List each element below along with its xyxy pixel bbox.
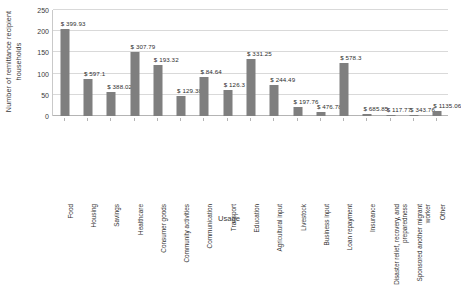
bar-slot: $ 331.25 — [239, 10, 262, 116]
y-axis-tick-label: 150 — [37, 49, 53, 56]
bar[interactable] — [340, 63, 349, 116]
bar-value-label: $ 1135.06 — [433, 102, 461, 109]
bar[interactable] — [107, 92, 116, 116]
y-axis-title: Number of remittance recipient household… — [4, 0, 23, 127]
x-axis-tick — [110, 118, 111, 121]
bar[interactable] — [177, 96, 186, 116]
x-axis-title: Usage — [0, 214, 458, 223]
bar[interactable] — [386, 115, 395, 116]
bar[interactable] — [153, 65, 162, 116]
x-axis-tick — [157, 118, 158, 121]
x-axis-tick — [390, 118, 391, 121]
x-axis-tick — [134, 118, 135, 121]
x-axis-tick — [203, 118, 204, 121]
bar[interactable] — [410, 115, 419, 116]
x-axis-tick — [366, 118, 367, 121]
bar-slot: $ 126.3 — [216, 10, 239, 116]
bar-slot: $ 388.02 — [100, 10, 123, 116]
bar-slot: $ 197.76 — [286, 10, 309, 116]
x-axis-tick — [64, 118, 65, 121]
x-axis-tick — [436, 118, 437, 121]
x-axis-tick — [320, 118, 321, 121]
x-axis-category-labels: FoodHousingSavingsHealthcareConsumer goo… — [52, 118, 448, 206]
x-axis-tick — [343, 118, 344, 121]
bar-slot: $ 597.1 — [76, 10, 99, 116]
bar[interactable] — [60, 29, 69, 116]
x-axis-tick — [250, 118, 251, 121]
x-axis-tick — [413, 118, 414, 121]
bar-slot: $ 117.77 — [379, 10, 402, 116]
bar[interactable] — [246, 59, 255, 116]
bar-series: $ 399.93$ 597.1$ 388.02$ 307.79$ 193.32$… — [53, 10, 448, 116]
bar[interactable] — [83, 79, 92, 116]
y-axis-tick-label: 100 — [37, 70, 53, 77]
bar-slot: $ 129.38 — [169, 10, 192, 116]
bar[interactable] — [293, 107, 302, 116]
bar[interactable] — [130, 52, 139, 116]
plot-area: 050100150200250 $ 399.93$ 597.1$ 388.02$… — [52, 10, 448, 116]
bar[interactable] — [316, 112, 325, 116]
x-axis-tick — [297, 118, 298, 121]
bar[interactable] — [363, 114, 372, 116]
bar-slot: $ 84.64 — [193, 10, 216, 116]
bar-slot: $ 578.3 — [333, 10, 356, 116]
x-axis-tick — [227, 118, 228, 121]
bar[interactable] — [200, 77, 209, 116]
bar-slot: $ 399.93 — [53, 10, 76, 116]
bar-slot: $ 476.78 — [309, 10, 332, 116]
y-axis-tick-label: 250 — [37, 7, 53, 14]
bar-slot: $ 343.76 — [402, 10, 425, 116]
y-axis-tick-label: 50 — [41, 91, 53, 98]
x-axis-tick — [273, 118, 274, 121]
bar-slot: $ 244.49 — [263, 10, 286, 116]
bar-slot: $ 685.85 — [356, 10, 379, 116]
bar[interactable] — [270, 85, 279, 116]
bar[interactable] — [223, 90, 232, 116]
x-axis-tick — [87, 118, 88, 121]
x-axis-tick — [180, 118, 181, 121]
bar-slot: $ 307.79 — [123, 10, 146, 116]
bar-slot: $ 1135.06 — [426, 10, 449, 116]
bar-slot: $ 193.32 — [146, 10, 169, 116]
bar[interactable] — [433, 111, 442, 116]
y-axis-tick-label: 200 — [37, 28, 53, 35]
